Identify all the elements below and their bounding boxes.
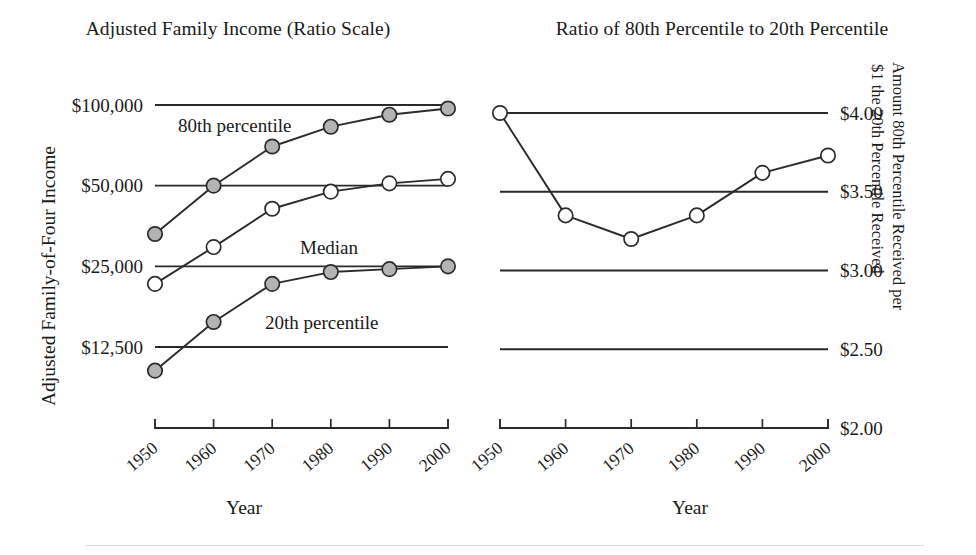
x-tick-label-left: 1960 <box>181 438 221 476</box>
y-axis-label-right-line2: $1 the 20th Percentile Received <box>867 64 888 462</box>
series-annotation-80th: 80th percentile <box>178 115 291 136</box>
x-tick-label-right: 1950 <box>467 438 507 476</box>
data-point-marker <box>382 108 396 122</box>
x-tick-label-left: 1950 <box>122 438 162 476</box>
x-tick-label-left: 1990 <box>356 438 396 476</box>
series-annotation-median: Median <box>300 237 359 258</box>
x-tick-label-left: 1980 <box>298 438 338 476</box>
y-axis-label-right: Amount 80th Percentile Received per $1 t… <box>843 62 909 462</box>
x-tick-label-right: 1970 <box>598 438 638 476</box>
data-point-marker <box>382 176 396 190</box>
data-point-marker <box>382 262 396 276</box>
data-point-marker <box>324 265 338 279</box>
data-point-marker <box>148 277 162 291</box>
data-point-marker <box>441 259 455 273</box>
data-point-marker <box>265 202 279 216</box>
x-axis-left <box>155 419 448 428</box>
chart-svg-left: $100,000$50,000$25,000$12,50019501960197… <box>0 0 488 555</box>
page-divider-rule <box>86 545 924 546</box>
data-point-marker <box>441 101 455 115</box>
data-point-marker <box>324 119 338 133</box>
data-point-marker <box>558 208 572 222</box>
series-line-right <box>500 113 828 239</box>
data-point-marker <box>324 184 338 198</box>
x-tick-label-left: 2000 <box>415 438 455 476</box>
data-point-marker <box>493 106 507 120</box>
x-tick-label-right: 2000 <box>795 438 835 476</box>
y-tick-label-left: $25,000 <box>81 256 143 277</box>
x-tick-label-right: 1980 <box>664 438 704 476</box>
x-tick-label-left: 1970 <box>239 438 279 476</box>
data-point-marker <box>148 227 162 241</box>
data-point-marker <box>148 363 162 377</box>
data-point-marker <box>265 277 279 291</box>
chart-panel-adjusted-family-income: Adjusted Family Income (Ratio Scale) Adj… <box>0 0 488 555</box>
x-tick-label-right: 1990 <box>729 438 769 476</box>
x-axis-label-left: Year <box>0 497 488 519</box>
x-axis-label-right: Year <box>460 497 920 519</box>
data-point-marker <box>441 172 455 186</box>
data-point-marker <box>206 240 220 254</box>
y-axis-label-right-line1: Amount 80th Percentile Received per <box>888 62 909 462</box>
y-tick-label-left: $100,000 <box>72 95 143 116</box>
y-tick-label-left: $12,500 <box>81 337 143 358</box>
data-point-marker <box>624 232 638 246</box>
y-tick-label-left: $50,000 <box>81 175 143 196</box>
data-point-marker <box>755 166 769 180</box>
series-annotation-20th: 20th percentile <box>265 312 378 333</box>
data-point-marker <box>265 139 279 153</box>
x-tick-label-right: 1960 <box>533 438 573 476</box>
data-point-marker <box>206 178 220 192</box>
data-point-marker <box>690 208 704 222</box>
data-point-marker <box>206 315 220 329</box>
data-point-marker <box>821 148 835 162</box>
x-axis-right <box>500 419 828 428</box>
